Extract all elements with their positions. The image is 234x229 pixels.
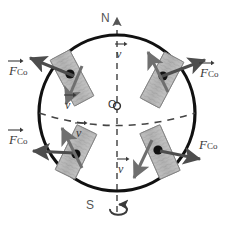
vector-arrow-icon (115, 41, 128, 46)
force-label-bottom-right: FCo (199, 136, 217, 152)
force-arrow-bottom-left (33, 151, 74, 153)
center-label: O (108, 99, 117, 110)
velocity-symbol: v (76, 126, 81, 140)
force-symbol: F (199, 137, 207, 152)
velocity-label-top-right: v (116, 45, 121, 61)
spin-arrow (110, 204, 127, 214)
vector-arrow-icon (117, 156, 130, 161)
force-label-top-left: FCo (9, 62, 27, 78)
vector-arrow-icon (8, 58, 24, 63)
velocity-arrow-bottom-right (134, 140, 152, 178)
force-symbol: F (9, 63, 17, 78)
north-pole-label: N (101, 12, 110, 24)
vector-arrow-icon (64, 92, 77, 97)
force-subscript: Co (207, 141, 218, 151)
force-label-bottom-left: FCo (9, 131, 27, 147)
force-subscript: Co (17, 136, 28, 146)
force-label-top-right: FCo (200, 64, 218, 80)
force-subscript: Co (208, 69, 219, 79)
diagram-canvas (0, 0, 234, 229)
force-symbol: F (9, 132, 17, 147)
coriolis-diagram: N S O FCo FCo FCo FCo (0, 0, 234, 229)
vector-arrow-icon (75, 120, 88, 125)
air-mass-top-left (50, 50, 94, 106)
vector-arrow-icon (8, 127, 24, 132)
force-subscript: Co (17, 67, 28, 77)
velocity-label-top-left: v (65, 96, 70, 112)
velocity-symbol: v (116, 47, 121, 61)
force-symbol: F (200, 65, 208, 80)
velocity-label-bottom-left: v (76, 124, 81, 140)
south-pole-label: S (86, 199, 94, 211)
velocity-symbol: v (118, 162, 123, 176)
vector-arrow-icon (199, 60, 215, 65)
velocity-label-bottom-right: v (118, 160, 123, 176)
velocity-symbol: v (65, 98, 70, 112)
